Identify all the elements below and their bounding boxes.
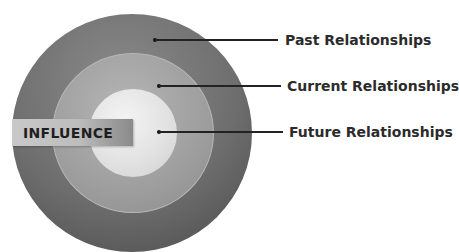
influence-label: INFLUENCE: [23, 125, 113, 141]
current-leader-line: [159, 85, 281, 87]
current-relationships-label: Current Relationships: [287, 78, 459, 94]
future-relationships-label: Future Relationships: [289, 124, 453, 140]
future-leader-line: [159, 131, 283, 133]
past-leader-line: [155, 39, 278, 41]
influence-banner: INFLUENCE: [12, 119, 133, 146]
past-relationships-label: Past Relationships: [285, 32, 431, 48]
